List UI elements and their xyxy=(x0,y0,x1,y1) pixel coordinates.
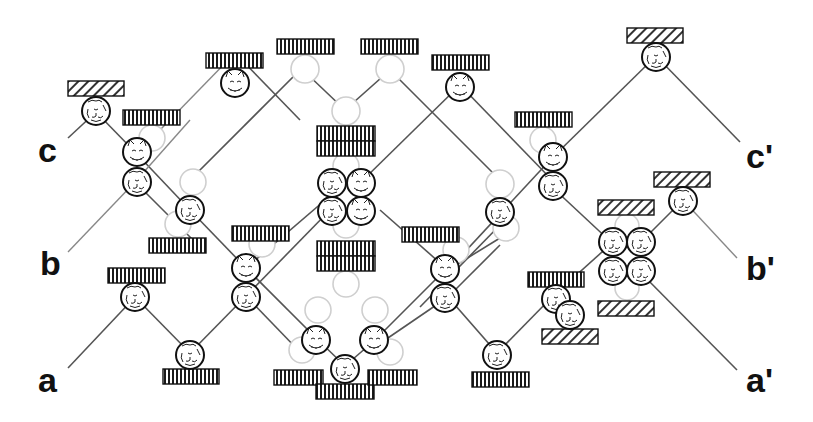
ghost-circle xyxy=(333,271,359,297)
cat-circle xyxy=(347,197,375,225)
cat-circle xyxy=(556,301,584,329)
label-c-prime: c' xyxy=(746,137,773,175)
striped-box xyxy=(163,369,219,384)
label-b: b xyxy=(40,244,61,282)
ghost-circle xyxy=(376,55,404,83)
cat-circle xyxy=(360,326,388,354)
striped-box xyxy=(123,110,180,125)
braid-diagram: c b a c' b' a' xyxy=(0,0,813,422)
cat-circle xyxy=(599,257,627,285)
ghost-circle xyxy=(291,55,319,83)
cat-circle xyxy=(486,198,514,226)
cat-circle xyxy=(232,283,260,311)
striped-box xyxy=(108,268,165,283)
striped-box xyxy=(274,370,323,385)
cat-circle xyxy=(331,355,359,383)
cat-circle xyxy=(318,169,346,197)
cat-circle xyxy=(627,257,655,285)
cat-circle xyxy=(627,228,655,256)
striped-box xyxy=(317,141,375,156)
cat-circle xyxy=(642,43,670,71)
striped-box xyxy=(317,256,375,271)
label-c: c xyxy=(38,131,57,169)
hatched-box xyxy=(598,301,654,316)
hatched-box xyxy=(627,28,683,43)
label-a: a xyxy=(38,361,58,399)
striped-box xyxy=(472,372,529,387)
ghost-circle xyxy=(305,297,331,323)
hatched-box xyxy=(598,200,654,215)
cat-circle xyxy=(539,172,567,200)
striped-box xyxy=(232,226,289,241)
ghost-circle xyxy=(180,169,206,195)
striped-box xyxy=(432,55,489,70)
hatched-box xyxy=(654,172,710,187)
cat-circle xyxy=(431,284,459,312)
cat-circle xyxy=(176,341,204,369)
striped-box xyxy=(206,53,263,68)
striped-box xyxy=(317,126,375,141)
cat-circle xyxy=(82,97,110,125)
cat-circle xyxy=(121,283,149,311)
cat-circle xyxy=(123,138,151,166)
cat-circle xyxy=(318,197,346,225)
label-a-prime: a' xyxy=(746,361,773,399)
ghost-circle xyxy=(332,97,360,125)
cat-circle xyxy=(483,341,511,369)
striped-box xyxy=(368,370,417,385)
cat-circle xyxy=(446,73,474,101)
striped-box xyxy=(317,241,375,256)
striped-box xyxy=(402,227,459,242)
cat-circle xyxy=(431,255,459,283)
cat-circle xyxy=(176,196,204,224)
cat-circle xyxy=(302,326,330,354)
cat-circle xyxy=(123,168,151,196)
cat-circle xyxy=(599,228,627,256)
hatched-box xyxy=(542,329,598,344)
cat-circle xyxy=(232,254,260,282)
cat-circle xyxy=(347,169,375,197)
labels: c b a c' b' a' xyxy=(38,131,775,399)
striped-box xyxy=(277,39,334,54)
striped-box xyxy=(149,238,206,253)
cat-circle xyxy=(669,187,697,215)
striped-box xyxy=(316,384,374,399)
label-b-prime: b' xyxy=(746,249,775,287)
cat-circle xyxy=(539,143,567,171)
striped-box xyxy=(515,112,572,127)
cat-circle xyxy=(221,69,249,97)
striped-box xyxy=(361,39,418,54)
ghost-circle xyxy=(362,297,388,323)
ghost-circle xyxy=(486,170,514,198)
hatched-box xyxy=(68,81,124,96)
